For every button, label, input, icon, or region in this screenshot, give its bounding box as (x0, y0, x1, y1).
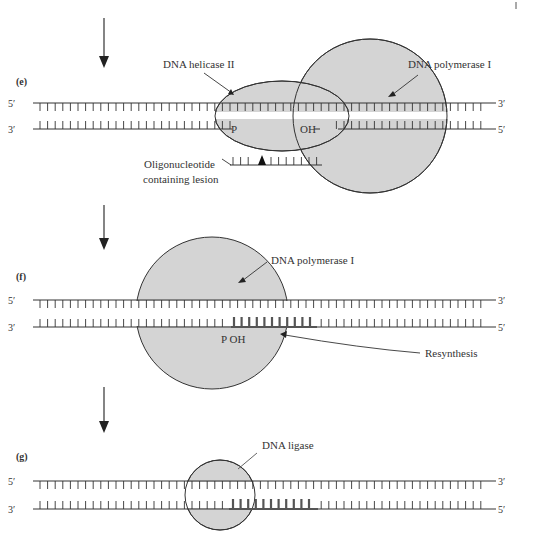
end-label-3prime-bottom-g: 3′ (8, 504, 15, 515)
step-arrow-g (99, 387, 109, 433)
end-label-3prime-top-g: 3′ (498, 476, 505, 487)
step-arrow-f (99, 205, 109, 250)
pointer-ligase (238, 453, 257, 469)
pointer-resynthesis (280, 331, 420, 353)
end-label-5prime-top-e: 5′ (8, 98, 15, 109)
dna-repair-diagram: (e) 5′ 3′ 3′ 5′ P OH DNA helicase II D (0, 0, 547, 546)
lesion-marker (258, 155, 266, 165)
end-label-5prime-bottom-f: 5′ (498, 322, 505, 333)
label-dna-polymerase-i-f: DNA polymerase I (271, 254, 354, 266)
p-oh-ends-f: P OH (221, 333, 245, 345)
end-label-5prime-top-g: 5′ (8, 476, 15, 487)
panel-f: (f) 5′ 3′ 3′ 5′ P OH DNA polymerase I Re… (8, 237, 505, 389)
step-arrow-e (99, 18, 109, 68)
end-label-5prime-bottom-g: 5′ (498, 504, 505, 515)
panel-e: (e) 5′ 3′ 3′ 5′ P OH DNA helicase II D (8, 39, 505, 193)
gap-band (210, 112, 450, 119)
label-dna-helicase-ii: DNA helicase II (163, 58, 235, 70)
end-label-5prime-bottom-e: 5′ (498, 124, 505, 135)
end-label-3prime-bottom-e: 3′ (8, 124, 15, 135)
end-label-3prime-top-f: 3′ (498, 295, 505, 306)
label-dna-ligase: DNA ligase (262, 439, 314, 451)
phosphate-end-e: P (231, 123, 237, 135)
label-oligonucleotide-line1: Oligonucleotide (144, 158, 215, 170)
panel-label-g: (g) (16, 451, 28, 463)
bottom-bases-g (40, 501, 481, 509)
duplex-band-g (183, 482, 258, 508)
end-label-3prime-top-e: 3′ (498, 98, 505, 109)
panel-label-e: (e) (16, 76, 27, 88)
panel-g: (g) 5′ 3′ 3′ 5′ DNA ligase (8, 439, 505, 530)
label-resynthesis: Resynthesis (425, 347, 478, 359)
oligonucleotide-bases (233, 157, 317, 165)
top-bases-f (40, 300, 481, 308)
label-oligonucleotide-line2: containing lesion (143, 173, 219, 185)
pointer-oligonucleotide (222, 159, 231, 165)
duplex-band-f (134, 301, 291, 326)
label-dna-polymerase-i-e: DNA polymerase I (408, 58, 491, 70)
end-label-5prime-top-f: 5′ (8, 295, 15, 306)
pointer-helicase (204, 73, 234, 95)
top-bases-g (40, 481, 481, 489)
panel-label-f: (f) (16, 271, 26, 283)
hydroxyl-end-e: OH (300, 123, 316, 135)
end-label-3prime-bottom-f: 3′ (8, 322, 15, 333)
